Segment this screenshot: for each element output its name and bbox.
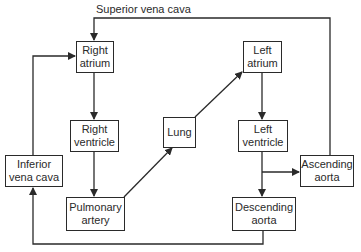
node-text: Left — [243, 123, 284, 136]
node-text: aorta — [301, 171, 352, 184]
node-text: artery — [69, 214, 122, 227]
node-ascending-aorta: Ascendingaorta — [300, 155, 354, 187]
node-text: Inferior — [9, 158, 59, 171]
node-text: vena cava — [9, 171, 59, 184]
node-text: ventricle — [74, 136, 115, 149]
node-descending-aorta: Descendingaorta — [232, 197, 296, 231]
node-text: aorta — [235, 214, 293, 227]
node-right-atrium: Rightatrium — [76, 41, 114, 73]
node-left-atrium: Leftatrium — [243, 41, 282, 73]
edge-pulmonary-artery-to-lung — [124, 148, 172, 197]
edge-ascending-aorta-to-superior-vena-cava — [94, 18, 330, 155]
node-text: ventricle — [243, 136, 284, 149]
superior-vena-cava-label: Superior vena cava — [96, 3, 191, 16]
node-right-ventricle: Rightventricle — [70, 120, 119, 152]
node-left-ventricle: Leftventricle — [238, 120, 288, 152]
node-text: Lung — [167, 126, 191, 139]
node-text: Descending — [235, 201, 293, 214]
node-text: Right — [80, 44, 111, 57]
node-text: Pulmonary — [69, 201, 122, 214]
node-text: atrium — [247, 57, 278, 70]
edge-lung-to-left-atrium — [195, 72, 242, 117]
node-text: Right — [74, 123, 115, 136]
node-text: atrium — [80, 57, 111, 70]
node-text: Ascending — [301, 158, 352, 171]
node-text: Left — [247, 44, 278, 57]
node-inferior-vena-cava: Inferiorvena cava — [5, 155, 63, 187]
edge-inferior-vena-cava-to-right-atrium — [33, 56, 75, 155]
node-lung: Lung — [163, 117, 196, 148]
node-pulmonary-artery: Pulmonaryartery — [66, 197, 125, 231]
